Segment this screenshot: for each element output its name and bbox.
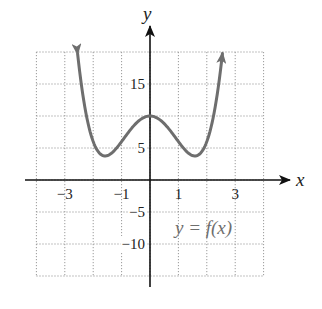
x-tick-label: −1 [114,186,130,202]
function-graph: −3−113155−5−10 x y y = f(x) [0,0,322,309]
y-tick-label: 15 [130,76,145,92]
y-axis-label: y [141,3,152,24]
x-tick-label: 3 [231,186,239,202]
y-tick-label: 5 [138,140,146,156]
x-tick-label: −3 [57,186,73,202]
x-axis-label: x [295,169,305,190]
function-label: y = f(x) [173,217,232,239]
y-tick-label: −5 [129,204,145,220]
x-tick-label: 1 [175,186,183,202]
y-tick-label: −10 [122,236,145,252]
